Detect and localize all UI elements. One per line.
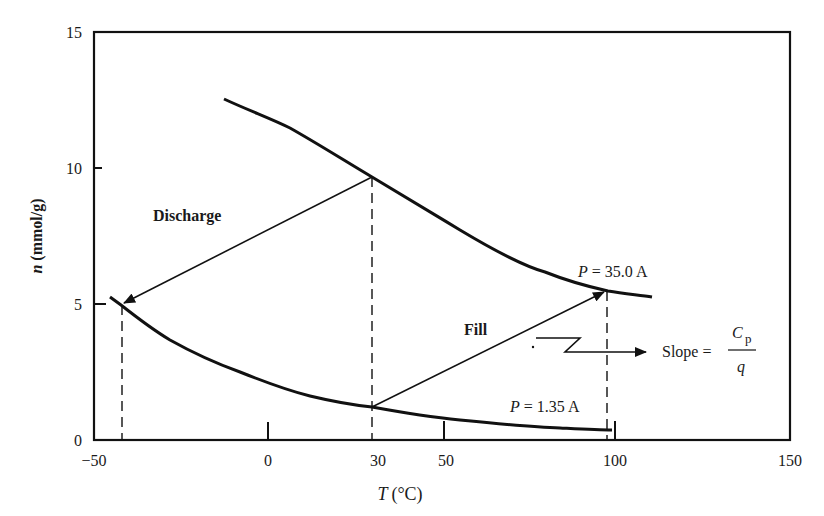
y-tick-15: 15 bbox=[66, 24, 82, 41]
plot-frame bbox=[94, 32, 790, 440]
x-axis-ticks bbox=[268, 421, 615, 440]
y-axis-ticks bbox=[94, 168, 106, 304]
slope-indicator-arrow bbox=[536, 338, 646, 352]
x-tick-neg50: −50 bbox=[81, 452, 106, 469]
y-tick-labels: 15 10 5 0 bbox=[66, 24, 82, 449]
x-tick-labels: −50 0 30 50 100 150 bbox=[81, 452, 802, 469]
q-denominator: q bbox=[737, 358, 745, 376]
slope-label: Slope = bbox=[662, 343, 711, 361]
slope-formula: Slope = C p q bbox=[662, 324, 756, 376]
x-tick-50: 50 bbox=[438, 452, 454, 469]
y-axis-title: n(mmol/g) bbox=[28, 198, 46, 273]
isobar-high-pressure bbox=[224, 99, 652, 297]
cp-numerator: C bbox=[732, 324, 743, 341]
x-tick-0: 0 bbox=[264, 452, 272, 469]
x-tick-100: 100 bbox=[603, 452, 627, 469]
adsorption-isobar-chart: 15 10 5 0 −50 0 30 50 100 150 T(°C) n(mm… bbox=[0, 0, 824, 516]
x-axis-title: T(°C) bbox=[377, 484, 422, 505]
y-tick-0: 0 bbox=[74, 432, 82, 449]
discharge-label: Discharge bbox=[153, 207, 221, 225]
discharge-arrow bbox=[124, 177, 372, 303]
x-tick-150: 150 bbox=[778, 452, 802, 469]
cp-subscript: p bbox=[745, 331, 752, 346]
fill-arrow bbox=[372, 292, 604, 407]
speck bbox=[532, 346, 534, 348]
y-tick-5: 5 bbox=[74, 296, 82, 313]
high-pressure-label: P= 35.0 A bbox=[577, 263, 648, 280]
fill-label: Fill bbox=[464, 321, 488, 338]
y-tick-10: 10 bbox=[66, 160, 82, 177]
low-pressure-label: P= 1.35 A bbox=[509, 398, 580, 415]
x-tick-30: 30 bbox=[370, 452, 386, 469]
